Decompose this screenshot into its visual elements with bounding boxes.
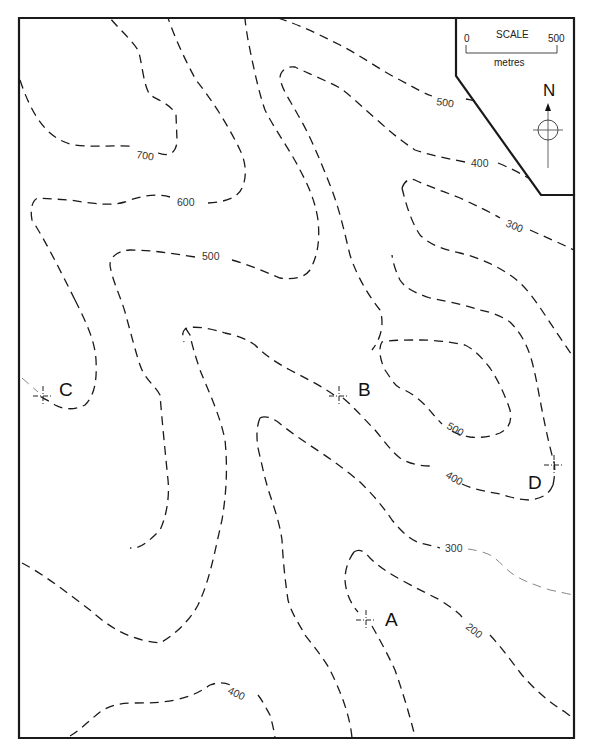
- contour-700: [20, 18, 177, 155]
- contour-200-west-arm: [345, 552, 416, 738]
- contour-label-600: 600: [177, 196, 195, 208]
- contour-300-faint-tail: [468, 549, 574, 595]
- contour-200: [354, 550, 574, 718]
- north-label: N: [543, 81, 555, 100]
- contour-400-topright: [280, 67, 465, 350]
- map-frame: [19, 18, 574, 738]
- topographic-map: 700 600 500 500 400 400 300 500 300 200 …: [0, 0, 592, 753]
- contour-label-500-topright: 500: [436, 95, 455, 109]
- contour-label-400-topright: 400: [471, 157, 489, 169]
- point-label-c: C: [59, 379, 73, 400]
- contour-300: [260, 417, 440, 548]
- point-d-marker: [544, 455, 564, 475]
- contour-400: [183, 327, 553, 500]
- contour-600-west-faint: [22, 378, 38, 392]
- point-label-d: D: [528, 472, 542, 493]
- contour-500-hill: [380, 340, 511, 437]
- point-c-marker: [33, 386, 53, 406]
- contour-label-300-near-a: 300: [445, 542, 463, 554]
- contour-label-400-bottom: 400: [226, 684, 247, 702]
- scale-unit-label: metres: [494, 57, 525, 68]
- contour-label-300-right: 300: [504, 217, 525, 235]
- north-arrow-icon: N: [533, 81, 563, 168]
- contour-label-500: 500: [202, 250, 220, 262]
- scale-bar: 0 SCALE 500 metres: [464, 29, 565, 68]
- scale-start-label: 0: [464, 33, 470, 44]
- contour-400-east: [392, 255, 555, 485]
- scale-end-label: 500: [548, 33, 565, 44]
- point-label-b: B: [358, 379, 371, 400]
- contour-300-west-arm: [257, 418, 352, 738]
- point-label-a: A: [385, 609, 398, 630]
- contour-label-200: 200: [464, 620, 485, 640]
- scale-title: SCALE: [496, 29, 529, 40]
- contour-300-right-lower: [402, 188, 574, 358]
- contour-500-topright: [278, 18, 478, 103]
- contour-label-700: 700: [136, 148, 155, 162]
- contour-300-right: [402, 179, 574, 250]
- point-b-marker: [329, 386, 349, 406]
- contour-label-500-hill: 500: [445, 419, 466, 438]
- contour-500-southwest: [22, 328, 226, 643]
